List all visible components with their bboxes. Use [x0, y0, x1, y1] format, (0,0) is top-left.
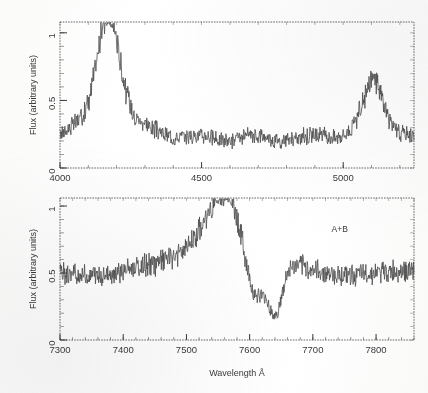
y-tick-label: 0.5	[46, 269, 57, 282]
x-tick-label: 7800	[366, 344, 387, 355]
x-tick-label: 7400	[113, 344, 134, 355]
y-tick-label: 0	[46, 340, 57, 345]
x-tick-label: 7500	[176, 344, 197, 355]
y-tick-label: 1	[46, 206, 57, 211]
x-tick-label: 7700	[302, 344, 323, 355]
x-tick-label: 5000	[333, 172, 354, 183]
y-tick-label: 0	[46, 168, 57, 173]
y-axis-label: Flux (arbitrary units)	[28, 229, 38, 309]
panel-annotation: A+B	[332, 224, 349, 234]
figure-background	[0, 0, 428, 393]
x-tick-label: 4500	[191, 172, 212, 183]
y-tick-label: 0.5	[46, 97, 57, 110]
x-tick-label: 7600	[239, 344, 260, 355]
x-axis-label: Wavelength Å	[209, 368, 265, 378]
y-tick-label: 1	[46, 33, 57, 38]
y-axis-label: Flux (arbitrary units)	[28, 55, 38, 135]
spectrum-figure: 40004500500000.51Flux (arbitrary units) …	[0, 0, 428, 393]
